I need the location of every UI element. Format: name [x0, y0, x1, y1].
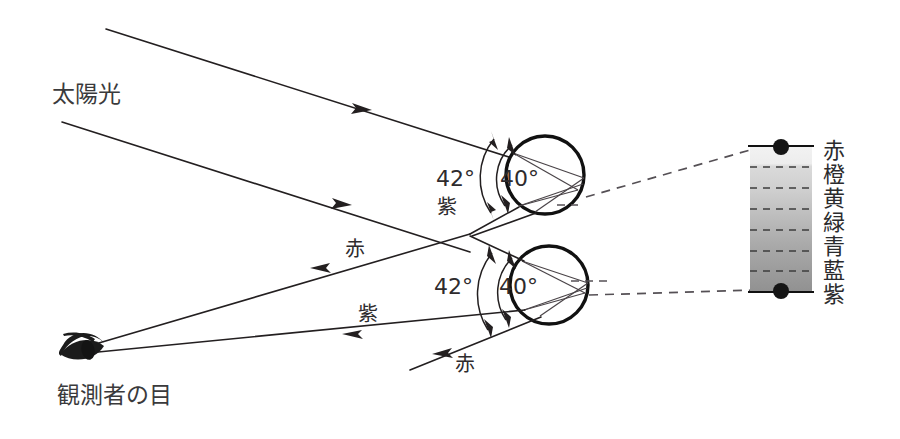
sunlight-label: 太陽光: [52, 81, 121, 107]
angle-42-lower: 42°: [434, 274, 473, 299]
spectrum-label-5: 藍: [823, 258, 845, 283]
spectrum-bar: [748, 139, 814, 299]
spectrum-label-6: 紫: [823, 282, 845, 307]
red-label-lower-ray: 赤: [455, 352, 475, 376]
observer-eye-label: 観測者の目: [57, 382, 172, 408]
spectrum-bottom-dot: [773, 283, 789, 299]
spectrum-label-2: 黄: [823, 186, 845, 211]
spectrum-label-1: 橙: [823, 162, 845, 187]
spectrum-label-3: 緑: [823, 210, 845, 235]
rainbow-diagram: 太陽光 42° 40° 紫: [0, 0, 900, 439]
spectrum-label-0: 赤: [823, 138, 845, 163]
diagram-canvas: 太陽光 42° 40° 紫: [0, 0, 900, 439]
angle-42-upper: 42°: [436, 166, 475, 191]
violet-label-lower-ray: 紫: [358, 302, 378, 326]
spectrum-top-dot: [773, 139, 789, 155]
violet-label-upper: 紫: [437, 195, 457, 219]
red-label-upper-ray: 赤: [345, 237, 365, 261]
angle-40-upper: 40°: [500, 166, 539, 191]
spectrum-labels: 赤 橙 黄 緑 青 藍 紫: [823, 138, 845, 307]
spectrum-label-4: 青: [823, 234, 845, 259]
angle-40-lower: 40°: [499, 274, 538, 299]
